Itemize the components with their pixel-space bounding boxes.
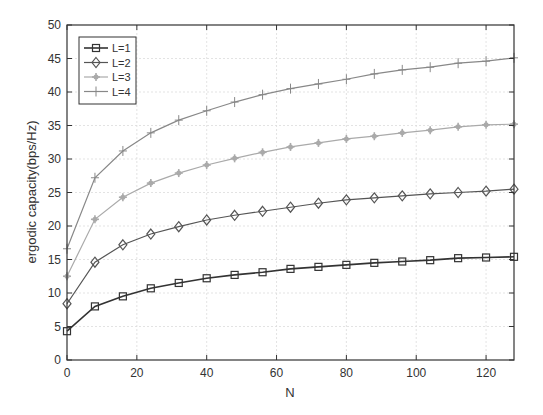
asterisk-marker	[175, 169, 183, 177]
x-tick-label: 80	[340, 366, 354, 380]
y-axis-label: ergodic capacity(bps/Hz)	[24, 120, 39, 263]
plus-marker	[482, 56, 490, 66]
asterisk-marker	[147, 179, 155, 187]
series-L2	[63, 184, 518, 309]
plus-marker	[147, 128, 155, 138]
x-tick-label: 120	[476, 366, 496, 380]
line-chart: 02040608010012005101520253035404550 N er…	[0, 0, 543, 415]
asterisk-marker	[342, 135, 350, 143]
asterisk-marker	[314, 139, 322, 147]
plus-marker	[175, 115, 183, 125]
plus-marker	[370, 69, 378, 79]
y-tick-label: 45	[48, 52, 62, 66]
asterisk-marker	[231, 154, 239, 162]
series-L3	[63, 120, 518, 280]
legend-label: L=1	[112, 42, 131, 54]
x-tick-label: 100	[406, 366, 426, 380]
asterisk-marker	[482, 121, 490, 129]
plus-marker	[314, 79, 322, 89]
x-axis-label: N	[285, 385, 294, 400]
plus-marker	[398, 65, 406, 75]
legend-label: L=3	[112, 71, 131, 83]
asterisk-marker	[203, 161, 211, 169]
y-tick-label: 35	[48, 119, 62, 133]
x-tick-label: 20	[130, 366, 144, 380]
series-L1	[64, 253, 518, 334]
y-tick-label: 10	[48, 286, 62, 300]
y-tick-label: 25	[48, 186, 62, 200]
legend: L=1L=2L=3L=4	[79, 37, 136, 104]
plus-marker	[203, 106, 211, 116]
y-tick-label: 20	[48, 219, 62, 233]
asterisk-marker	[398, 129, 406, 137]
asterisk-marker	[287, 143, 295, 151]
y-tick-label: 15	[48, 253, 62, 267]
x-tick-label: 40	[200, 366, 214, 380]
asterisk-marker	[454, 123, 462, 131]
plus-marker	[454, 58, 462, 68]
x-tick-label: 60	[270, 366, 284, 380]
y-tick-label: 30	[48, 152, 62, 166]
y-tick-label: 0	[54, 353, 61, 367]
asterisk-marker	[370, 132, 378, 140]
y-tick-label: 40	[48, 85, 62, 99]
plus-marker	[426, 62, 434, 72]
legend-label: L=2	[112, 57, 131, 69]
legend-label: L=4	[112, 86, 131, 98]
plus-marker	[259, 90, 267, 100]
x-tick-label: 0	[64, 366, 71, 380]
asterisk-marker	[426, 126, 434, 134]
y-tick-label: 50	[48, 18, 62, 32]
plus-marker	[231, 97, 239, 107]
y-tick-label: 5	[54, 320, 61, 334]
asterisk-marker	[259, 148, 267, 156]
plus-marker	[342, 74, 350, 84]
